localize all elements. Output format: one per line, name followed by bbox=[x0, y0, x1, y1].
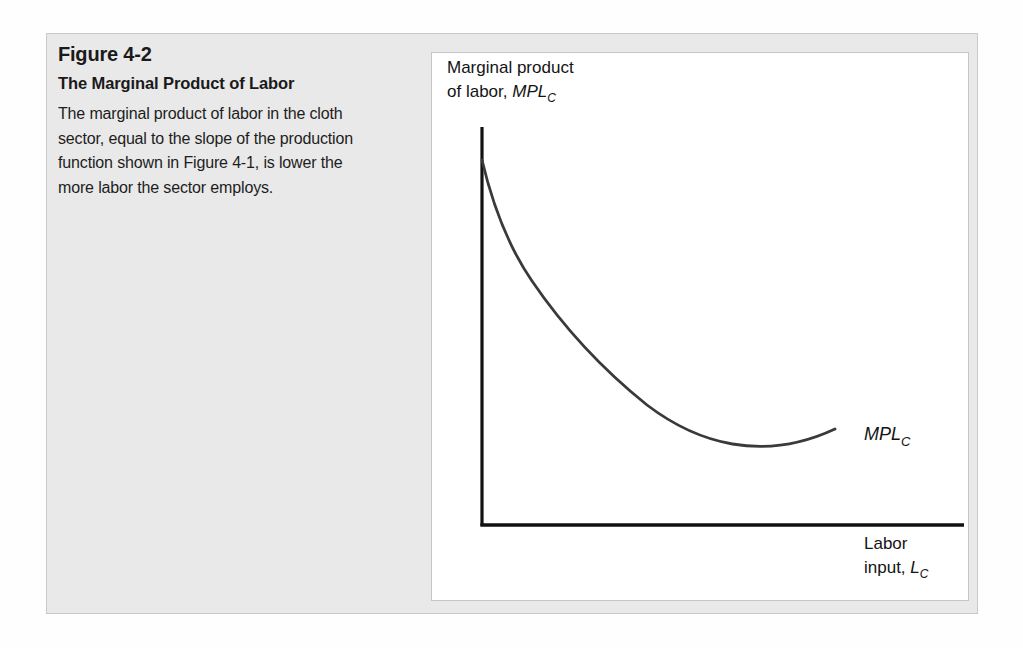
chart-panel: Marginal product of labor, MPLC MPLC Lab… bbox=[431, 52, 969, 601]
x-axis-label-line2: input, LC bbox=[864, 558, 929, 581]
x-axis-label-subscript: C bbox=[920, 567, 929, 581]
y-axis-label-subscript: C bbox=[547, 91, 556, 105]
figure-caption-block: Figure 4-2 The Marginal Product of Labor… bbox=[58, 42, 388, 200]
y-axis-label-line2: of labor, MPLC bbox=[447, 82, 556, 105]
y-axis-label-symbol: MPL bbox=[512, 82, 547, 101]
figure-page: Figure 4-2 The Marginal Product of Labor… bbox=[0, 0, 1023, 648]
curve-label-mpl: MPLC bbox=[864, 424, 911, 449]
y-axis-label-prefix: of labor, bbox=[447, 82, 512, 101]
figure-number: Figure 4-2 bbox=[58, 42, 388, 66]
x-axis-label-prefix: input, bbox=[864, 558, 910, 577]
y-axis-label-line1: Marginal product bbox=[447, 58, 574, 77]
x-axis-label-line1: Labor bbox=[864, 534, 908, 553]
figure-title: The Marginal Product of Labor bbox=[58, 72, 388, 94]
figure-description: The marginal product of labor in the clo… bbox=[58, 102, 358, 200]
curve-label-symbol: MPL bbox=[864, 424, 901, 444]
curve-label-subscript: C bbox=[901, 434, 911, 449]
mpl-curve-chart: Marginal product of labor, MPLC MPLC Lab… bbox=[432, 53, 970, 602]
figure-panel: Figure 4-2 The Marginal Product of Labor… bbox=[46, 33, 978, 614]
x-axis-label-symbol: L bbox=[910, 558, 919, 577]
mpl-curve-path bbox=[482, 160, 835, 446]
